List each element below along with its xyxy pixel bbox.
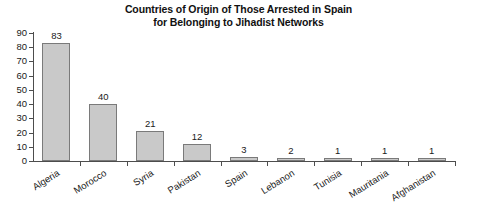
- x-axis-line: [33, 161, 455, 162]
- x-axis-tick-mark: [80, 161, 81, 166]
- bar-pakistan: [183, 144, 211, 161]
- bar-mauritania: [371, 158, 399, 161]
- plot-area: 8340211232111: [33, 33, 455, 161]
- bar-chart: Countries of Origin of Those Arrested in…: [0, 0, 477, 224]
- x-axis-tick-mark: [267, 161, 268, 166]
- bar-value-label: 83: [33, 31, 80, 41]
- y-axis-tick-label: 0: [22, 156, 27, 166]
- x-axis-tick-mark: [408, 161, 409, 166]
- bar-value-label: 1: [314, 146, 361, 156]
- chart-title: Countries of Origin of Those Arrested in…: [0, 3, 477, 28]
- y-axis-tick-label: 70: [16, 56, 27, 66]
- bar-value-label: 2: [267, 146, 314, 156]
- y-axis-tick-label: 30: [16, 113, 27, 123]
- bar-lebanon: [277, 158, 305, 161]
- bar-morocco: [89, 104, 117, 161]
- bar-value-label: 21: [127, 119, 174, 129]
- bar-spain: [230, 157, 258, 161]
- y-axis-tick-label: 80: [16, 42, 27, 52]
- bar-value-label: 1: [361, 146, 408, 156]
- bar-value-label: 12: [174, 132, 221, 142]
- y-axis-tick-label: 20: [16, 128, 27, 138]
- bar-syria: [136, 131, 164, 161]
- chart-title-line-1: Countries of Origin of Those Arrested in…: [0, 3, 477, 16]
- x-axis-tick-mark: [127, 161, 128, 166]
- x-axis-tick-mark: [221, 161, 222, 166]
- y-axis-tick-label: 90: [16, 28, 27, 38]
- bar-afghanistan: [418, 158, 446, 161]
- y-axis-tick-label: 40: [16, 99, 27, 109]
- y-axis-tick-mark: [29, 161, 33, 162]
- bar-value-label: 40: [80, 92, 127, 102]
- chart-title-line-2: for Belonging to Jihadist Networks: [0, 16, 477, 29]
- x-axis-tick-mark: [455, 161, 456, 166]
- bar-algeria: [42, 43, 70, 161]
- y-axis-tick-label: 50: [16, 85, 27, 95]
- y-axis-tick-label: 60: [16, 71, 27, 81]
- bar-value-label: 3: [221, 145, 268, 155]
- bar-value-label: 1: [408, 146, 455, 156]
- bar-tunisia: [324, 158, 352, 161]
- x-axis-tick-mark: [174, 161, 175, 166]
- x-axis-tick-mark: [314, 161, 315, 166]
- x-axis-tick-mark: [361, 161, 362, 166]
- y-axis-tick-label: 10: [16, 142, 27, 152]
